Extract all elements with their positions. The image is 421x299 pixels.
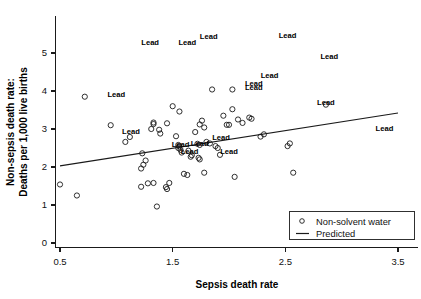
scatter-point	[151, 180, 156, 185]
y-tick-label: 2	[42, 161, 47, 172]
scatter-point	[185, 172, 190, 177]
y-tick-label: 1	[42, 199, 47, 210]
scatter-point	[235, 117, 240, 122]
scatter-point	[230, 87, 235, 92]
y-tick-label: 3	[42, 123, 47, 134]
y-tick-label: 0	[42, 237, 47, 248]
scatter-point	[181, 171, 186, 176]
lead-annotation-label: Lead	[220, 147, 238, 156]
y-axis-title-line1: Non-sepsis death rate:	[5, 78, 16, 186]
scatter-point	[145, 181, 150, 186]
scatter-point	[154, 204, 159, 209]
scatter-point	[74, 193, 79, 198]
lead-annotation-label: Lead	[141, 38, 159, 47]
scatter-point	[123, 139, 128, 144]
figure-container: 012345 0.51.52.53.5 Sepsis death rate No…	[0, 0, 421, 299]
lead-annotation-label: Lead	[122, 127, 140, 136]
scatter-point	[167, 180, 172, 185]
lead-annotation-label: Lead	[181, 147, 199, 156]
scatter-point	[149, 126, 154, 131]
y-axis-title-line2: Deaths per 1,000 live births	[18, 67, 29, 197]
scatter-point	[240, 120, 245, 125]
scatter-point	[164, 121, 169, 126]
lead-annotation-label: Lead	[317, 98, 335, 107]
scatter-point	[173, 134, 178, 139]
y-axis-ticks: 012345	[42, 47, 56, 248]
lead-annotation-label: Lead	[261, 71, 279, 80]
scatter-point	[232, 174, 237, 179]
scatter-point	[108, 123, 113, 128]
scatter-point	[230, 107, 235, 112]
x-tick-label: 2.5	[279, 256, 292, 267]
scatter-point	[57, 182, 62, 187]
lead-annotation-label: Lead	[178, 38, 196, 47]
scatter-point	[82, 94, 87, 99]
lead-annotation-label: Lead	[279, 31, 297, 40]
scatter-point	[202, 170, 207, 175]
scatter-point	[170, 104, 175, 109]
scatter-point	[291, 170, 296, 175]
legend[interactable]: Non-solvent water Predicted	[290, 212, 415, 240]
lead-annotation-label: Lead	[107, 90, 125, 99]
scatter-point	[193, 129, 198, 134]
scatter-point	[143, 158, 148, 163]
scatter-point	[221, 113, 226, 118]
scatter-plot: 012345 0.51.52.53.5 Sepsis death rate No…	[0, 0, 421, 299]
x-tick-label: 3.5	[391, 256, 404, 267]
y-tick-label: 5	[42, 47, 47, 58]
x-axis-ticks: 0.51.52.53.5	[53, 248, 404, 268]
legend-label-predicted[interactable]: Predicted	[316, 229, 355, 239]
lead-annotation-label: Lead	[320, 52, 338, 61]
lead-annotation-label: Lead	[212, 133, 230, 142]
lead-annotation-label: Lead	[245, 83, 263, 92]
lead-annotation-label: Lead	[376, 124, 394, 133]
x-tick-label: 1.5	[166, 256, 179, 267]
legend-label-non-solvent-water[interactable]: Non-solvent water	[316, 217, 391, 227]
scatter-point	[197, 157, 202, 162]
scatter-point	[139, 184, 144, 189]
scatter-point	[202, 125, 207, 130]
scatter-point	[177, 109, 182, 114]
lead-annotations-group: LeadLeadLeadLeadLeadLeadLeadLeadLeadLead…	[107, 31, 393, 156]
scatter-point	[210, 87, 215, 92]
y-tick-label: 4	[42, 85, 47, 96]
x-axis-title: Sepsis death rate	[196, 279, 279, 290]
lead-annotation-label: Lead	[200, 32, 218, 41]
x-tick-label: 0.5	[53, 256, 66, 267]
